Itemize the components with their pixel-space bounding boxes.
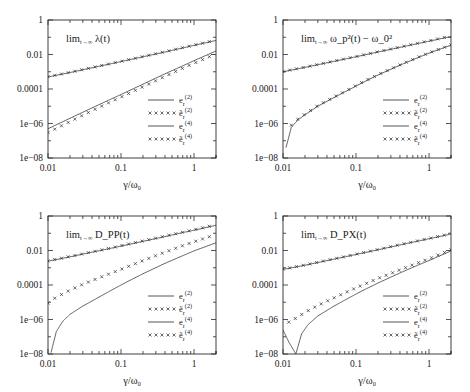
legend-marker-swatch [167, 112, 170, 115]
series-marker-e~_r^(4) [378, 276, 381, 279]
x-tick-label: 0.1 [115, 359, 127, 369]
series-marker-e~_r^(4) [339, 293, 342, 296]
series-marker-e~_r^(4) [352, 287, 355, 290]
legend-label: ẽr(2) [179, 106, 192, 119]
series-marker-e~_r^(4) [181, 244, 184, 247]
legend-label: ẽr(4) [414, 328, 427, 341]
series-line-e_r^(4) [51, 243, 216, 353]
series-marker-e~_r^(4) [346, 290, 349, 293]
series-marker-e~_r^(4) [201, 58, 204, 61]
series-marker-e~_r^(4) [100, 105, 103, 108]
y-tick-label: 0.01 [261, 50, 278, 60]
legend-label: ẽr(4) [179, 132, 192, 145]
y-tick-label: 1e−08 [19, 349, 43, 359]
series-marker-e~_r^(4) [365, 282, 368, 285]
legend-marker-swatch [390, 308, 393, 311]
y-tick-label: 0.01 [261, 246, 278, 256]
legend-marker-swatch [402, 308, 405, 311]
y-tick-label: 1e−08 [254, 153, 278, 163]
legend-label: ẽr(2) [414, 302, 427, 315]
figure-root: 10.010.00011e−061e−080.010.11γ/ω0limt→∞ … [0, 0, 470, 392]
series-marker-e~_r^(4) [359, 285, 362, 288]
series-marker-e~_r^(4) [411, 264, 414, 267]
legend-marker-swatch [396, 308, 399, 311]
y-tick-label: 1e−08 [19, 153, 43, 163]
series-marker-e~_r^(4) [147, 83, 150, 86]
legend-label: er(2) [414, 289, 427, 302]
series-marker-e~_r^(4) [161, 76, 164, 79]
series-line-e_r^(4) [48, 51, 216, 129]
legend-marker-swatch [402, 334, 405, 337]
y-tick-label: 0.01 [26, 246, 43, 256]
legend-label: er(2) [179, 93, 192, 106]
legend-marker-swatch [390, 112, 393, 115]
series-marker-e~_r^(4) [94, 108, 97, 111]
x-axis-label: γ/ω0 [122, 179, 141, 191]
plot-svg: 10.010.00011e−061e−080.010.11γ/ω0limt→∞ … [0, 196, 235, 392]
series-marker-e~_r^(4) [188, 242, 191, 245]
legend-marker-swatch [173, 334, 176, 337]
series-marker-e~_r^(4) [114, 98, 117, 101]
series-marker-e~_r^(4) [87, 281, 90, 284]
series-marker-e~_r^(4) [67, 121, 70, 124]
series-marker-e~_r^(4) [326, 299, 329, 302]
y-tick-label: 1e−06 [19, 315, 43, 325]
x-tick-label: 0.01 [40, 163, 57, 173]
x-axis-label: γ/ω0 [357, 179, 376, 191]
series-marker-e~_r^(4) [87, 111, 90, 114]
y-tick-label: 0.01 [26, 50, 43, 60]
plot-svg: 10.010.00011e−061e−080.010.11γ/ω0limt→∞ … [235, 196, 470, 392]
series-marker-e~_r^(4) [287, 321, 290, 324]
legend-marker-swatch [396, 334, 399, 337]
series-marker-e~_r^(4) [437, 254, 440, 257]
series-marker-e~_r^(4) [120, 95, 123, 98]
y-tick-label: 1 [273, 15, 278, 25]
series-marker-e~_r^(4) [60, 293, 63, 296]
y-tick-label: 0.0001 [252, 84, 278, 94]
legend-label: ẽr(4) [414, 132, 427, 145]
series-marker-e~_r^(4) [120, 267, 123, 270]
series-marker-e~_r^(4) [417, 261, 420, 264]
plot-svg: 10.010.00011e−061e−080.010.11γ/ω0limt→∞ … [235, 0, 470, 196]
series-marker-e~_r^(4) [188, 64, 191, 67]
x-tick-label: 1 [427, 359, 432, 369]
legend-marker-swatch [396, 112, 399, 115]
legend-marker-swatch [384, 334, 387, 337]
legend-label: er(4) [414, 119, 427, 132]
series-marker-e~_r^(4) [208, 55, 211, 58]
series-marker-e~_r^(4) [398, 269, 401, 272]
legend-label: er(4) [414, 315, 427, 328]
series-marker-e~_r^(4) [201, 237, 204, 240]
series-marker-e~_r^(4) [141, 259, 144, 262]
panel-title: limt→∞ ω_p²(t) − ω_0² [301, 33, 392, 45]
x-tick-label: 0.01 [40, 359, 57, 369]
legend-marker-swatch [167, 334, 170, 337]
series-marker-e~_r^(4) [181, 67, 184, 70]
legend-marker-swatch [384, 308, 387, 311]
y-tick-label: 1 [273, 211, 278, 221]
legend-marker-swatch [408, 334, 411, 337]
chart-panel-panel-dpx: 10.010.00011e−061e−080.010.11γ/ω0limt→∞ … [235, 196, 470, 392]
legend-label: er(4) [179, 315, 192, 328]
series-marker-e~_r^(4) [333, 296, 336, 299]
legend-label: ẽr(2) [179, 302, 192, 315]
x-tick-label: 0.01 [275, 163, 292, 173]
legend-marker-swatch [384, 138, 387, 141]
series-marker-e~_r^(4) [294, 317, 297, 320]
legend-marker-swatch [149, 334, 152, 337]
legend-marker-swatch [408, 308, 411, 311]
x-tick-label: 0.1 [350, 359, 362, 369]
series-marker-e~_r^(4) [154, 254, 157, 257]
y-tick-label: 1e−08 [254, 349, 278, 359]
legend-marker-swatch [396, 138, 399, 141]
legend-label: er(2) [179, 289, 192, 302]
series-marker-e~_r^(4) [73, 118, 76, 121]
series-marker-e~_r^(4) [300, 313, 303, 316]
series-marker-e~_r^(4) [147, 257, 150, 260]
series-line-e_r^(2) [48, 40, 216, 76]
legend-marker-swatch [167, 308, 170, 311]
legend-label: er(2) [414, 93, 427, 106]
legend-marker-swatch [149, 112, 152, 115]
legend-marker-swatch [402, 138, 405, 141]
x-tick-label: 0.1 [115, 163, 127, 173]
